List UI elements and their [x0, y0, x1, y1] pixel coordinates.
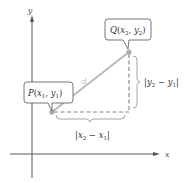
- x-axis-arrow-icon: [153, 152, 160, 156]
- distance-label: d: [82, 77, 87, 86]
- vertical-distance-label: |y2 − y1|: [144, 77, 179, 88]
- distance-formula-diagram: y x d Q(x2, y2) P(x1, y1): [0, 0, 185, 183]
- y-axis-arrow-icon: [30, 15, 34, 22]
- horizontal-brace-icon: [56, 115, 125, 122]
- vertical-brace-icon: [133, 56, 140, 108]
- point-p-callout: P(x1, y1): [24, 82, 73, 111]
- horizontal-distance-label: |x2 − x1|: [75, 130, 110, 141]
- x-axis: x: [10, 150, 170, 159]
- point-q-callout: Q(x2, y2): [105, 19, 151, 49]
- y-axis-label: y: [27, 6, 33, 15]
- x-axis-label: x: [165, 150, 170, 159]
- point-q-marker: [126, 49, 131, 54]
